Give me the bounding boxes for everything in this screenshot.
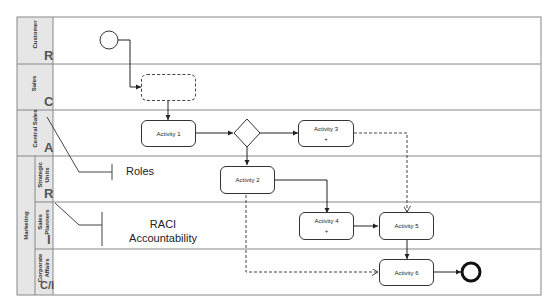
roles-annotation: Roles [126, 165, 154, 177]
gateway[interactable] [234, 119, 260, 147]
activity-6[interactable]: Activity 6 [379, 259, 434, 286]
raci-corporate-affairs: C/I [40, 279, 54, 291]
activity-2[interactable]: Activity 2 [220, 166, 275, 194]
subprocess-marker: + [325, 228, 329, 234]
end-event[interactable] [462, 263, 480, 281]
start-event[interactable] [100, 31, 118, 49]
raci-sales: C [44, 94, 53, 109]
subprocess-marker: + [324, 136, 328, 142]
group-marketing: Marketing [17, 156, 35, 295]
activity-5[interactable]: Activity 5 [379, 212, 434, 240]
activity-1[interactable]: Activity 1 [141, 120, 196, 147]
raci-sales-planners: I [47, 232, 51, 247]
raci-annotation-line [55, 203, 102, 225]
activity-4[interactable]: Activity 4 + [299, 212, 354, 240]
raci-annotation: RACI Accountability [118, 217, 208, 245]
raci-central-sales: A [44, 140, 53, 155]
raci-strategic-units: R [44, 186, 53, 201]
raci-customer: R [44, 48, 53, 63]
process-diagram [0, 0, 558, 302]
activity-3[interactable]: Activity 3 + [298, 120, 354, 147]
roles-annotation-line [47, 117, 112, 172]
flow-activity2-to-activity4 [274, 180, 327, 213]
placeholder-task[interactable] [141, 74, 196, 101]
message-flow-activity3-to-activity5 [354, 133, 407, 212]
